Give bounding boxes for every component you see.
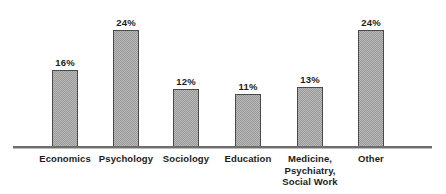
category-label-line: Social Work [264, 176, 356, 188]
bar-value-label: 12% [156, 76, 216, 87]
x-axis-line [13, 146, 432, 148]
bar-value-label: 24% [341, 17, 401, 28]
bar [235, 94, 261, 147]
bar [173, 89, 199, 147]
bar [52, 70, 78, 147]
bar-value-label: 11% [218, 81, 278, 92]
category-label-line: Psychiatry, [264, 165, 356, 177]
bar-value-label: 24% [96, 17, 156, 28]
bar-value-label: 16% [35, 57, 95, 68]
bar [297, 87, 323, 147]
category-label-line: Other [325, 153, 417, 165]
category-label: Other [325, 153, 417, 165]
bar [358, 30, 384, 147]
bar [113, 30, 139, 147]
bar-value-label: 13% [280, 74, 340, 85]
bar-chart: 16%24%12%11%13%24% EconomicsPsychologySo… [0, 0, 446, 194]
